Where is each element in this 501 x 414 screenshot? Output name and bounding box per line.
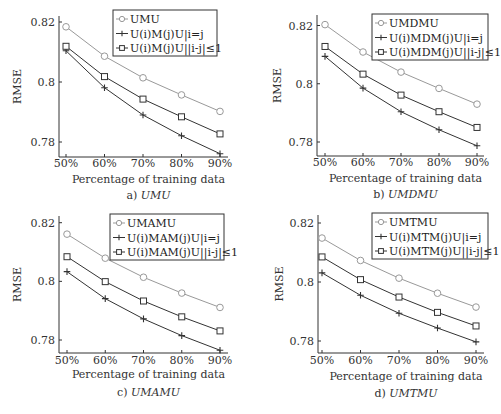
plus-marker (64, 268, 71, 275)
x-tick-label: 50% (55, 354, 79, 367)
square-marker (319, 254, 325, 260)
panel-b: 0.780.80.8250%60%70%80%90%Percentage of … (271, 14, 501, 201)
legend-label: UMU (130, 13, 160, 26)
caption-prefix: d) (374, 387, 385, 400)
square-marker (64, 254, 70, 260)
y-tick-label: 0.78 (31, 334, 56, 347)
square-marker (436, 109, 442, 115)
panel-caption: a) UMU (126, 189, 171, 202)
series-square (319, 254, 479, 329)
x-axis-label: Percentage of training data (329, 172, 483, 185)
legend-label: U(i)MDM(j)U||i-j|≤1 (389, 46, 501, 60)
plus-marker (473, 339, 480, 346)
square-marker (474, 124, 480, 130)
circle-marker (178, 92, 185, 99)
circle-marker (357, 257, 364, 264)
plus-marker (396, 310, 403, 317)
plus-marker (140, 112, 147, 119)
x-tick-label: 70% (131, 354, 155, 367)
x-tick-label: 80% (427, 156, 451, 169)
circle-marker (434, 290, 441, 297)
legend-label: U(i)MTM(j)U|i=j (389, 231, 481, 245)
x-tick-label: 60% (348, 354, 372, 367)
circle-marker (217, 108, 224, 115)
series-plus (64, 268, 224, 353)
y-axis-label: RMSE (271, 68, 284, 103)
square-marker (360, 71, 366, 77)
circle-marker (436, 85, 443, 92)
y-tick-label: 0.8 (38, 275, 56, 288)
plus-marker (217, 150, 224, 157)
caption-name: UMAMU (131, 386, 181, 399)
circle-marker (360, 49, 367, 56)
figure: 0.780.80.8250%60%70%80%90%Percentage of … (0, 0, 501, 414)
square-marker (141, 298, 147, 304)
y-tick-label: 0.82 (290, 217, 315, 230)
y-axis-label: RMSE (11, 69, 24, 104)
legend-label: U(i)M(j)U|i=j (130, 28, 204, 42)
square-marker (379, 249, 384, 254)
x-tick-label: 90% (208, 157, 232, 170)
series-line (322, 273, 476, 342)
legend-item: U(i)MTM(j)U|i=j (375, 231, 481, 245)
legend-item: U(i)MTM(j)U||i-j|≤1 (375, 245, 499, 259)
legend: UMTMUU(i)MTM(j)U|i=jU(i)MTM(j)U||i-j|≤1 (372, 213, 499, 259)
square-marker (117, 250, 122, 255)
square-marker (473, 323, 479, 329)
plus-marker (319, 270, 326, 277)
circle-marker (322, 21, 329, 28)
circle-marker (319, 235, 326, 242)
series-line (66, 46, 220, 134)
panel-c: 0.780.80.8250%60%70%80%90%Percentage of … (11, 214, 238, 399)
plus-marker (178, 332, 185, 339)
square-marker (396, 294, 402, 300)
legend-label: U(i)MDM(j)U|i=j (389, 32, 483, 46)
x-axis-label: Percentage of training data (329, 370, 483, 383)
legend-label: U(i)M(j)U||i-j|≤1 (130, 42, 222, 56)
y-tick-label: 0.8 (297, 276, 315, 289)
legend: UMAMUU(i)MAM(j)U|i=jU(i)MAM(j)U||i-j|≤1 (110, 214, 238, 260)
plus-marker (398, 108, 405, 115)
legend-label: UMTMU (389, 216, 437, 229)
legend-item: U(i)M(j)U||i-j|≤1 (116, 42, 222, 56)
plus-marker (434, 325, 441, 332)
panel-a: 0.780.80.8250%60%70%80%90%Percentage of … (11, 10, 232, 202)
y-tick-label: 0.82 (31, 16, 56, 29)
x-tick-label: 50% (54, 157, 78, 170)
plus-marker (102, 295, 109, 302)
circle-marker (140, 75, 147, 82)
x-axis-label: Percentage of training data (72, 368, 226, 381)
legend-item: U(i)MDM(j)U||i-j|≤1 (375, 46, 501, 60)
caption-prefix: c) (117, 386, 127, 399)
caption-prefix: b) (373, 188, 384, 201)
x-tick-label: 90% (208, 354, 232, 367)
circle-marker (64, 231, 71, 238)
circle-marker (473, 304, 480, 311)
series-plus (322, 53, 481, 149)
caption-name: UMTMU (389, 387, 438, 400)
square-marker (398, 92, 404, 98)
square-marker (217, 328, 223, 334)
x-tick-label: 60% (351, 156, 375, 169)
square-marker (217, 131, 223, 137)
circle-marker (217, 304, 224, 311)
plus-marker (436, 126, 443, 133)
circle-marker (378, 20, 383, 25)
legend-item: U(i)MAM(j)U||i-j|≤1 (113, 246, 238, 260)
plus-marker (474, 142, 481, 149)
y-axis-label: RMSE (273, 266, 286, 301)
square-marker (63, 43, 69, 49)
legend-label: U(i)MAM(j)U||i-j|≤1 (127, 246, 238, 260)
caption-name: UMU (141, 189, 172, 202)
y-axis-label: RMSE (11, 267, 24, 302)
legend-item: U(i)MAM(j)U|i=j (113, 232, 220, 246)
series-square (63, 43, 223, 137)
square-marker (179, 114, 185, 120)
circle-marker (378, 219, 383, 224)
y-tick-label: 0.78 (290, 335, 315, 348)
x-tick-label: 70% (387, 354, 411, 367)
x-tick-label: 90% (464, 354, 488, 367)
legend-item: U(i)MDM(j)U|i=j (375, 32, 483, 46)
panel-caption: d) UMTMU (374, 387, 438, 400)
y-tick-label: 0.82 (289, 20, 314, 33)
